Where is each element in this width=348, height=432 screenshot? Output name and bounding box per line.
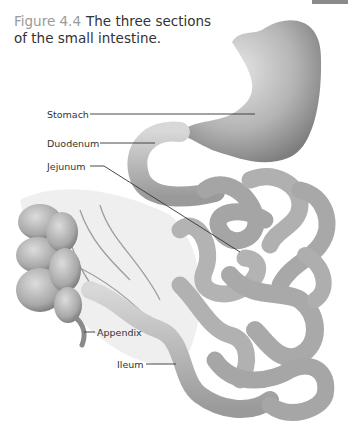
label-jejunum: Jejunum	[47, 161, 86, 172]
small-intestine-illustration	[0, 0, 348, 432]
jejunum-coils	[180, 177, 327, 413]
stomach-shape	[178, 20, 321, 162]
label-ileum: Ileum	[117, 359, 144, 370]
label-stomach: Stomach	[47, 109, 89, 120]
colon-shape	[16, 204, 82, 323]
label-appendix: Appendix	[97, 327, 142, 338]
label-duodenum: Duodenum	[47, 138, 99, 149]
